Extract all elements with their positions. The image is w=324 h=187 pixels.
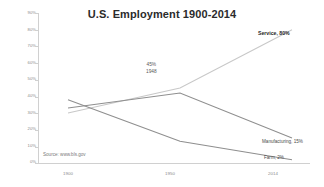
y-tick-label: 80%: [16, 28, 36, 32]
service-end-label: Service, 80%: [258, 31, 290, 36]
manufacturing-end-label: Manufacturing, 15%: [262, 140, 303, 145]
farm-line: [68, 100, 292, 160]
x-axis-line: [38, 163, 310, 164]
y-tick-label: 90%: [16, 11, 36, 15]
y-axis-line: [38, 13, 39, 164]
farm-end-label: Farm, 2%: [264, 156, 284, 161]
y-tick-label: 30%: [16, 111, 36, 115]
chart-container: U.S. Employment 1900-2014 90% 80% 70% 60…: [0, 0, 324, 187]
y-tick-label: 60%: [16, 61, 36, 65]
annotation-value: 45%: [146, 62, 157, 69]
annotation-year: 1948: [146, 69, 157, 76]
annotation-1948: 45% 1948: [146, 62, 157, 76]
x-axis: 1900 1950 2014: [0, 172, 324, 182]
y-axis: 90% 80% 70% 60% 50% 40% 30% 20% 10% 0%: [14, 0, 36, 187]
service-line: [68, 30, 292, 113]
x-tick-label: 1950: [150, 172, 190, 176]
source-note: Source: www.bls.gov: [43, 152, 86, 157]
y-tick-label: 40%: [16, 94, 36, 98]
y-tick-label: 0%: [16, 160, 36, 164]
x-tick-label: 1900: [48, 172, 88, 176]
y-tick-label: 20%: [16, 127, 36, 131]
x-tick-label: 2014: [253, 172, 293, 176]
y-tick-label: 10%: [16, 144, 36, 148]
y-tick-label: 50%: [16, 77, 36, 81]
y-tick-label: 70%: [16, 44, 36, 48]
chart-title: U.S. Employment 1900-2014: [0, 8, 324, 20]
manufacturing-line: [68, 93, 292, 138]
